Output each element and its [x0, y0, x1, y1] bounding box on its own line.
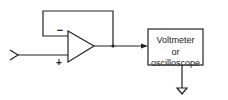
instrument-label-line1: Voltmeter	[148, 35, 203, 46]
output-node	[111, 44, 114, 47]
ground-icon	[177, 88, 187, 94]
instrument-label-line2: or oscilloscope	[148, 47, 203, 69]
minus-input-label: −	[55, 25, 65, 36]
opamp-icon	[68, 31, 94, 62]
input-terminal-icon	[10, 50, 18, 60]
arrow-icon	[141, 44, 148, 49]
plus-input-label: +	[54, 57, 64, 68]
